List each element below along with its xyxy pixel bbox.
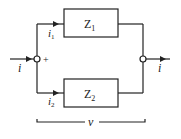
branch1-current-label: i1 — [48, 27, 55, 41]
voltage-bracket-left — [37, 119, 85, 122]
z2-label: Z2 — [84, 87, 95, 103]
output-current-label: i — [158, 61, 161, 75]
z1-label: Z1 — [84, 17, 95, 33]
voltage-label: v — [88, 115, 94, 129]
right-node — [140, 56, 146, 62]
circuit-svg: Z1 Z2 i i i1 i2 + v — [0, 0, 181, 139]
input-current-label: i — [18, 61, 21, 75]
circuit-diagram: Z1 Z2 i i i1 i2 + v — [0, 0, 181, 139]
voltage-bracket-right — [99, 119, 145, 122]
input-current-arrow-icon — [26, 56, 32, 62]
branch2-current-arrow-icon — [53, 90, 59, 96]
left-node — [34, 56, 40, 62]
branch1-current-arrow-icon — [53, 21, 59, 27]
voltage-polarity-plus: + — [43, 54, 49, 65]
branch2-current-label: i2 — [48, 95, 55, 109]
